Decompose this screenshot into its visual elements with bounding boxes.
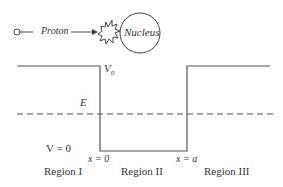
zero-potential-label: V = 0 (46, 142, 71, 154)
potential-well-line (17, 66, 270, 151)
barrier-label: V0 (104, 62, 114, 77)
x0-label: x = 0 (88, 153, 109, 164)
proton-icon (14, 29, 20, 35)
energy-label: E (80, 96, 87, 108)
collision-burst-icon (98, 20, 120, 44)
xa-label: x = a (176, 153, 197, 164)
nucleus-label: Nucleus (124, 26, 159, 38)
region-1-label: Region I (44, 165, 82, 177)
region-2-label: Region II (121, 165, 163, 177)
proton-label: Proton (41, 25, 68, 36)
region-3-label: Region III (204, 165, 250, 177)
